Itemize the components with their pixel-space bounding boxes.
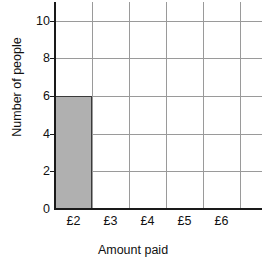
gridline-vertical xyxy=(129,2,130,209)
y-axis-tick-mark xyxy=(50,58,54,59)
x-axis-tick-label: £3 xyxy=(104,215,118,228)
x-axis-tick-label: £2 xyxy=(67,215,81,228)
y-axis-tick-mark xyxy=(50,21,54,22)
gridline-vertical xyxy=(92,2,93,209)
gridline-vertical xyxy=(240,2,241,209)
x-axis-title: Amount paid xyxy=(0,243,266,257)
y-axis-title: Number of people xyxy=(10,0,24,182)
gridline-horizontal xyxy=(55,21,262,22)
y-axis-tick-mark xyxy=(50,171,54,172)
bar xyxy=(55,96,92,209)
y-axis-tick-mark xyxy=(50,134,54,135)
bar-chart: 0246810 £2£3£4£5£6 Amount paid Number of… xyxy=(0,0,266,265)
gridline-vertical xyxy=(166,2,167,209)
gridline-horizontal xyxy=(55,58,262,59)
x-axis-tick-labels: £2£3£4£5£6 xyxy=(0,215,266,233)
x-axis-line xyxy=(55,208,262,210)
gridline-vertical xyxy=(203,2,204,209)
y-axis-tick-label: 0 xyxy=(2,203,50,216)
x-axis-tick-label: £5 xyxy=(178,215,192,228)
plot-area xyxy=(55,2,262,209)
x-axis-tick-label: £4 xyxy=(141,215,155,228)
y-axis-line xyxy=(54,2,56,210)
y-axis-tick-mark xyxy=(50,96,54,97)
x-axis-tick-label: £6 xyxy=(215,215,229,228)
